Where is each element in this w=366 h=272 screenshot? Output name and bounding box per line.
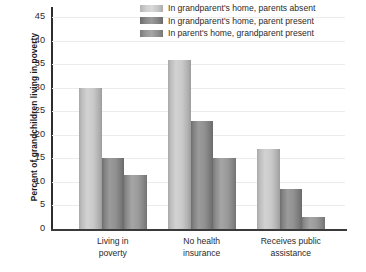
legend-label: In grandparent's home, parent present: [168, 16, 314, 26]
legend-label: In grandparent's home, parents absent: [168, 3, 315, 13]
plot-area: [52, 8, 345, 229]
y-tick-label: 30: [21, 83, 45, 92]
bar: [213, 158, 236, 229]
bar: [257, 149, 280, 229]
legend-swatch: [140, 17, 163, 24]
y-tick-label: 5: [21, 200, 45, 209]
x-category-label: Receives publicassistance: [236, 236, 346, 259]
y-tick-label: 15: [21, 153, 45, 162]
legend-swatch: [140, 30, 163, 37]
gridline: [52, 41, 345, 42]
legend-item: In parent's home, grandparent present: [140, 27, 366, 40]
bar: [168, 60, 191, 229]
bar: [102, 158, 125, 229]
bar: [79, 88, 102, 229]
legend-label: In parent's home, grandparent present: [168, 28, 314, 38]
y-tick-label: 20: [21, 130, 45, 139]
legend-item: In grandparent's home, parents absent: [140, 2, 366, 15]
bar: [302, 217, 325, 229]
bar: [191, 121, 214, 229]
chart-legend: In grandparent's home, parents absentIn …: [140, 2, 366, 40]
bar-chart: Percent of grandchildren living in pover…: [0, 0, 366, 272]
gridline: [52, 64, 345, 65]
y-tick-label: 45: [21, 12, 45, 21]
legend-swatch: [140, 5, 163, 12]
x-axis-line: [51, 229, 347, 231]
legend-item: In grandparent's home, parent present: [140, 15, 366, 28]
x-category-label-line: Receives public: [236, 236, 346, 248]
y-tick-label: 40: [21, 36, 45, 45]
y-tick-label: 10: [21, 177, 45, 186]
y-tick-label: 0: [21, 224, 45, 233]
x-category-label-line: assistance: [236, 248, 346, 260]
y-tick-label: 25: [21, 106, 45, 115]
y-axis-tick-labels: 051015202530354045: [20, 0, 45, 272]
bar: [280, 189, 303, 229]
bar: [124, 175, 147, 229]
y-tick-label: 35: [21, 59, 45, 68]
